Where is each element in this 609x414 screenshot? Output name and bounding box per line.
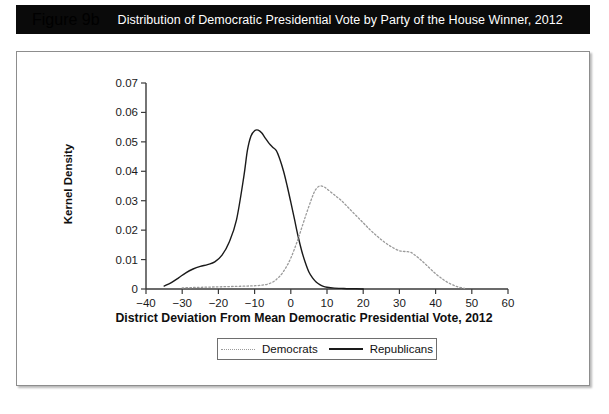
legend-item-republicans[interactable]: Republicans [329,343,433,355]
legend-label-democrats: Democrats [262,343,318,355]
y-tick-label: 0.05 [98,136,138,148]
figure-number: Figure 9b [32,11,100,29]
x-tick-label: 10 [321,297,334,309]
x-tick-label: −40 [136,297,156,309]
y-tick-label: 0.03 [98,195,138,207]
kernel-density-plot [17,52,591,387]
x-tick-label: 50 [465,297,478,309]
y-tick-label: 0.04 [98,165,138,177]
series-line-democrats [182,186,464,289]
y-tick-label: 0 [98,283,138,295]
chart-legend: Democrats Republicans [217,338,437,360]
legend-swatch-democrats [221,349,255,350]
x-tick-label: 60 [502,297,515,309]
series-line-republicans [164,130,363,289]
x-axis-title: District Deviation From Mean Democratic … [17,311,591,325]
figure-panel: Kernel Density District Deviation From M… [16,51,590,386]
x-tick-label: −20 [209,297,229,309]
figure-caption: Distribution of Democratic Presidential … [118,13,563,27]
x-tick-label: 20 [357,297,370,309]
x-tick-label: −10 [245,297,265,309]
y-tick-label: 0.07 [98,77,138,89]
figure-header-bar: Figure 9b Distribution of Democratic Pre… [16,5,590,34]
y-tick-label: 0.06 [98,106,138,118]
legend-label-republicans: Republicans [370,343,433,355]
x-tick-label: 30 [393,297,406,309]
x-tick-label: 40 [429,297,442,309]
y-tick-label: 0.02 [98,224,138,236]
x-tick-label: 0 [288,297,294,309]
y-tick-label: 0.01 [98,254,138,266]
x-tick-label: −30 [172,297,192,309]
chart-plot-area: Kernel Density District Deviation From M… [17,52,591,387]
y-axis-title: Kernel Density [62,124,74,244]
legend-item-democrats[interactable]: Democrats [221,343,318,355]
legend-swatch-republicans [329,348,363,349]
